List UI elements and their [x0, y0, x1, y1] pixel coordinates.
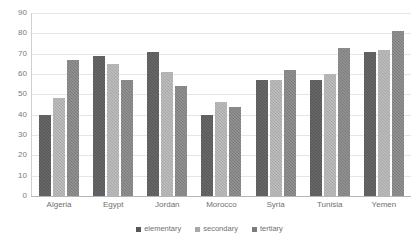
x-axis-line [31, 196, 411, 197]
bar-secondary[interactable] [107, 64, 119, 196]
legend-item-secondary[interactable]: secondary [195, 225, 238, 233]
x-axis-tick-label: Morocco [194, 200, 248, 210]
y-axis-tick-label: 90 [0, 9, 27, 17]
bar-tertiary[interactable] [284, 70, 296, 196]
bar-tertiary[interactable] [67, 60, 79, 196]
bar-groups [32, 13, 411, 196]
y-axis-tick-label: 60 [0, 70, 27, 78]
bar-elementary[interactable] [147, 52, 159, 196]
bar-tertiary[interactable] [121, 80, 133, 196]
y-axis-tick-label: 10 [0, 172, 27, 180]
bar-secondary[interactable] [378, 50, 390, 196]
x-axis-tick-label: Tunisia [303, 200, 357, 210]
legend-label: secondary [203, 225, 238, 233]
legend-label: elementary [144, 225, 181, 233]
bar-group [194, 13, 248, 196]
bar-group [32, 13, 86, 196]
y-axis-tick-label: 0 [0, 192, 27, 200]
bar-secondary[interactable] [215, 102, 227, 196]
bar-group [303, 13, 357, 196]
x-axis-tick-label: Yemen [357, 200, 411, 210]
bar-secondary[interactable] [324, 74, 336, 196]
bar-elementary[interactable] [39, 115, 51, 196]
x-axis-tick-label: Egypt [86, 200, 140, 210]
bar-secondary[interactable] [161, 72, 173, 196]
bar-chart: 0102030405060708090 AlgeriaEgyptJordanMo… [0, 0, 419, 244]
chart-legend: elementarysecondarytertiary [0, 225, 419, 233]
bar-group [140, 13, 194, 196]
x-axis-labels: AlgeriaEgyptJordanMoroccoSyriaTunisiaYem… [32, 200, 411, 210]
bar-elementary[interactable] [201, 115, 213, 196]
x-axis-tick-label: Algeria [32, 200, 86, 210]
y-axis-tick-label: 80 [0, 29, 27, 37]
x-axis-tick-label: Jordan [140, 200, 194, 210]
bar-elementary[interactable] [310, 80, 322, 196]
y-axis-labels: 0102030405060708090 [0, 0, 27, 244]
bar-group [357, 13, 411, 196]
y-axis-tick-label: 30 [0, 131, 27, 139]
bar-secondary[interactable] [270, 80, 282, 196]
legend-item-elementary[interactable]: elementary [136, 225, 181, 233]
bar-tertiary[interactable] [229, 107, 241, 196]
y-axis-tick-label: 70 [0, 50, 27, 58]
y-axis-tick-label: 40 [0, 111, 27, 119]
x-axis-tick-label: Syria [249, 200, 303, 210]
bar-tertiary[interactable] [175, 86, 187, 196]
bar-elementary[interactable] [364, 52, 376, 196]
bar-secondary[interactable] [53, 98, 65, 196]
y-axis-tick-label: 50 [0, 90, 27, 98]
bar-elementary[interactable] [256, 80, 268, 196]
bar-elementary[interactable] [93, 56, 105, 196]
legend-swatch-icon [252, 227, 257, 232]
legend-item-tertiary[interactable]: tertiary [252, 225, 283, 233]
legend-label: tertiary [260, 225, 283, 233]
bar-group [249, 13, 303, 196]
y-axis-tick-label: 20 [0, 151, 27, 159]
bar-tertiary[interactable] [338, 48, 350, 196]
bar-group [86, 13, 140, 196]
bar-tertiary[interactable] [392, 31, 404, 196]
legend-swatch-icon [195, 227, 200, 232]
legend-swatch-icon [136, 227, 141, 232]
